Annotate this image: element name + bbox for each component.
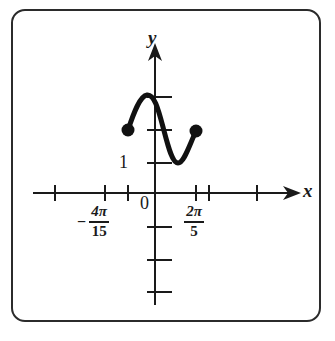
sine-curve [128,95,196,163]
coordinate-plot [0,0,335,341]
fraction-numerator: 2π [184,204,204,221]
x-tick-label-negative-four-pi-over-fifteen: − 4π 15 [77,204,109,240]
fraction: 2π 5 [184,204,204,240]
fraction-denominator: 5 [188,223,200,240]
y-value-label-1: 1 [119,153,128,171]
figure-page: y x 0 1 − 4π 15 2π 5 [0,0,335,341]
curve-endpoint-right [190,125,203,138]
x-tick-label-two-pi-over-five: 2π 5 [184,204,204,240]
minus-sign: − [77,214,86,230]
y-axis-label: y [148,28,156,47]
fraction-numerator: 4π [89,204,109,221]
x-axis-label: x [303,181,313,200]
fraction: 4π 15 [89,204,109,240]
fraction-denominator: 15 [90,223,109,240]
curve-endpoint-left [122,124,135,137]
origin-label: 0 [140,194,149,212]
